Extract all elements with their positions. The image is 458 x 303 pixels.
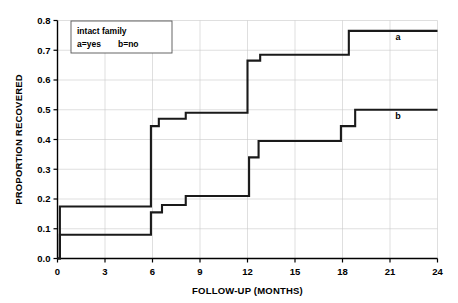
chart-container: 0.00.10.20.30.40.50.60.70.80369121518212…: [0, 0, 458, 303]
legend-entry-a: a=yes: [77, 39, 101, 49]
legend-entry-b: b=no: [118, 39, 139, 49]
gridlines: [58, 21, 438, 259]
x-axis-title: FOLLOW-UP (MONTHS): [192, 285, 303, 296]
survival-step-chart: 0.00.10.20.30.40.50.60.70.80369121518212…: [0, 0, 458, 303]
x-tick-label: 12: [242, 266, 253, 277]
y-tick-label: 0.7: [37, 45, 50, 56]
x-tick-label: 24: [432, 266, 443, 277]
x-tick-label: 18: [337, 266, 348, 277]
legend: intact familya=yesb=no: [71, 21, 172, 53]
series-annotation-b: b: [395, 111, 401, 121]
y-tick-label: 0.3: [37, 164, 50, 175]
x-tick-label: 15: [290, 266, 301, 277]
y-tick-label: 0.0: [37, 253, 50, 264]
x-tick-label: 0: [55, 266, 60, 277]
y-axis-title: PROPORTION RECOVERED: [13, 74, 24, 205]
legend-title: intact family: [77, 26, 127, 36]
y-tick-label: 0.8: [37, 15, 50, 26]
y-tick-label: 0.1: [37, 223, 51, 234]
x-tick-label: 21: [385, 266, 396, 277]
y-tick-label: 0.6: [37, 74, 50, 85]
tick-labels: 0.00.10.20.30.40.50.60.70.80369121518212…: [37, 15, 443, 277]
x-tick-label: 3: [102, 266, 107, 277]
y-tick-label: 0.4: [37, 134, 51, 145]
y-tick-label: 0.2: [37, 193, 50, 204]
x-tick-label: 6: [150, 266, 155, 277]
x-tick-label: 9: [197, 266, 202, 277]
series-annotation-a: a: [395, 32, 401, 42]
y-tick-label: 0.5: [37, 104, 51, 115]
